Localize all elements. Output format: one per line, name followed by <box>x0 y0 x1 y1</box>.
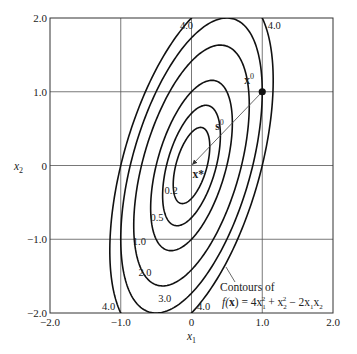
y-tick-label: 2.0 <box>33 12 47 24</box>
contour-label: 4.0 <box>180 20 193 31</box>
y-axis-label: x2 <box>13 160 23 175</box>
contour-label: 3.0 <box>158 293 171 304</box>
x-tick-label: 2.0 <box>326 316 340 328</box>
x-tick-label: 1.0 <box>255 316 269 328</box>
contour-label: 0.2 <box>165 185 178 196</box>
start-point-marker <box>259 88 266 95</box>
contour-label: 1.0 <box>133 236 146 247</box>
x-axis-label: x1 <box>186 330 196 345</box>
y-tick-label: 1.0 <box>33 86 47 98</box>
contour-label: 4.0 <box>197 301 210 312</box>
x-tick-label: 0 <box>189 316 195 328</box>
direction-label: s0 <box>215 118 223 132</box>
contour-label: 4.0 <box>102 301 115 312</box>
y-tick-label: 0 <box>42 160 48 172</box>
start-point-label: x0 <box>244 72 254 86</box>
contour-label: 4.0 <box>268 20 281 31</box>
y-tick-label: −1.0 <box>27 233 47 245</box>
y-tick-label: −2.0 <box>27 307 47 319</box>
contour-label: 2.0 <box>138 267 151 278</box>
contour-label: 0.5 <box>150 212 163 223</box>
annotation-leader-line <box>226 267 235 282</box>
annotation-function: f(x) = 4x12 + x22 − 2x1x2 <box>222 295 323 311</box>
annotation-line-1: Contours of <box>220 281 275 293</box>
contour-plot: −2.0−1.001.02.02.01.00−1.0−2.0 0.20.51.0… <box>0 0 357 354</box>
x-tick-label: −1.0 <box>111 316 131 328</box>
tick-labels: −2.0−1.001.02.02.01.00−1.0−2.0 <box>27 12 340 328</box>
minimum-label: x* <box>193 168 205 180</box>
